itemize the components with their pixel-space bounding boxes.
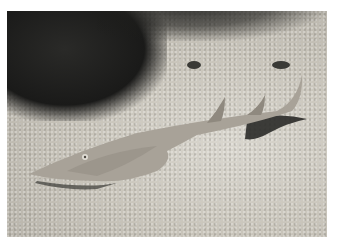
photo [7,11,327,237]
guitarfish [7,11,327,237]
